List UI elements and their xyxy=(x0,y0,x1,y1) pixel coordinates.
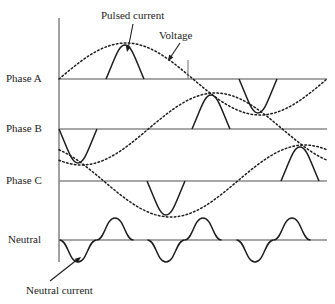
waveform-figure: Pulsed currentVoltageNeutral currentPhas… xyxy=(0,0,335,304)
leader-voltage xyxy=(170,43,180,58)
pulse-phase-b-pulsed-current-1 xyxy=(192,95,230,129)
pulse-phase-a-pulsed-current-1 xyxy=(239,79,277,113)
pulse-phase-c-pulsed-current-0 xyxy=(147,181,185,215)
annotation-voltage: Voltage xyxy=(159,30,192,41)
row-label-phase-b: Phase B xyxy=(6,123,42,134)
waveform-canvas xyxy=(0,0,335,304)
row-label-neutral: Neutral xyxy=(8,234,41,245)
neutral-hump-2 xyxy=(148,240,185,262)
row-label-phase-a: Phase A xyxy=(6,73,42,84)
annotation-pulsed-current: Pulsed current xyxy=(101,10,164,21)
annotation-neutral-current: Neutral current xyxy=(26,285,93,296)
neutral-hump-5 xyxy=(274,218,311,240)
row-label-phase-c: Phase C xyxy=(6,175,42,186)
arrowhead-voltage xyxy=(168,55,173,61)
pulse-phase-b-pulsed-current-0 xyxy=(59,129,97,163)
neutral-hump-4 xyxy=(237,240,274,262)
neutral-hump-1 xyxy=(97,218,134,240)
leader-pulsed-current xyxy=(128,24,133,49)
neutral-hump-3 xyxy=(185,218,222,240)
leader-neutral-current xyxy=(50,259,78,281)
pulse-phase-c-pulsed-current-1 xyxy=(281,147,319,181)
pulse-phase-a-pulsed-current-0 xyxy=(106,45,144,79)
